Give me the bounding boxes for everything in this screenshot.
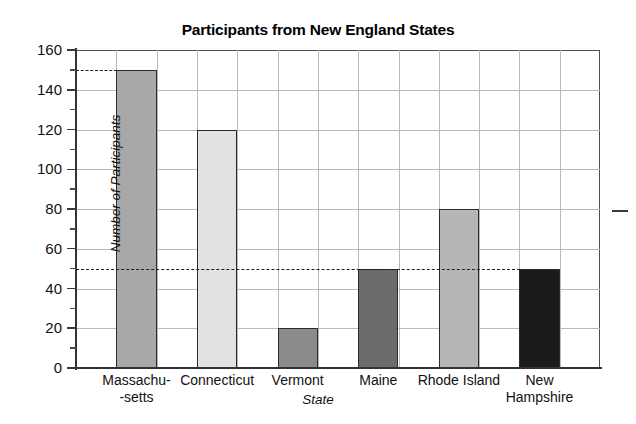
y-tick-minor bbox=[70, 109, 76, 110]
y-tick-minor bbox=[70, 149, 76, 150]
bar-rhode island bbox=[439, 209, 479, 368]
y-tick-minor bbox=[70, 188, 76, 189]
y-tick-minor bbox=[70, 308, 76, 309]
gridline-vertical bbox=[399, 50, 400, 368]
y-tick-label: 80 bbox=[18, 200, 62, 217]
plot-area: Number of Participants bbox=[76, 50, 600, 368]
y-tick-major bbox=[67, 208, 76, 210]
y-tick-minor bbox=[70, 347, 76, 348]
y-tick-label: 140 bbox=[18, 81, 62, 98]
bar-new-hampshire bbox=[519, 269, 559, 368]
bar-maine bbox=[358, 269, 398, 368]
gridline-vertical bbox=[237, 50, 238, 368]
reference-line-150 bbox=[76, 70, 117, 71]
y-tick-label: 60 bbox=[18, 240, 62, 257]
y-tick-major bbox=[67, 129, 76, 131]
y-tick-label: 100 bbox=[18, 160, 62, 177]
gridline-vertical bbox=[318, 50, 319, 368]
bar-connecticut bbox=[197, 130, 237, 369]
y-tick-major bbox=[67, 169, 76, 171]
gridline-vertical bbox=[479, 50, 480, 368]
y-tick-label: 0 bbox=[18, 359, 62, 376]
x-axis-line bbox=[75, 367, 602, 369]
chart-title: Participants from New England States bbox=[0, 21, 636, 39]
y-tick-major bbox=[67, 49, 76, 51]
y-tick-major bbox=[67, 288, 76, 290]
x-axis-title: State bbox=[0, 392, 636, 407]
reference-line-50 bbox=[76, 269, 520, 270]
gridline-vertical bbox=[560, 50, 561, 368]
y-tick-major bbox=[67, 89, 76, 91]
y-tick-label: 160 bbox=[18, 41, 62, 58]
y-tick-minor bbox=[70, 228, 76, 229]
y-tick-major bbox=[67, 367, 76, 369]
gridline-vertical bbox=[278, 50, 279, 368]
y-tick-label: 20 bbox=[18, 319, 62, 336]
bar-chart-figure: . . . Participants from New England Stat… bbox=[0, 0, 636, 424]
y-axis-title: Number of Participants bbox=[108, 89, 123, 279]
y-tick-major bbox=[67, 327, 76, 329]
y-tick-minor bbox=[70, 69, 76, 70]
gridline-vertical bbox=[157, 50, 158, 368]
stray-dash-mark bbox=[612, 210, 628, 212]
y-tick-label: 40 bbox=[18, 280, 62, 297]
y-tick-major bbox=[67, 248, 76, 250]
scan-artifact-text: . . . bbox=[14, 0, 164, 9]
y-tick-label: 120 bbox=[18, 121, 62, 138]
y-tick-minor bbox=[70, 268, 76, 269]
bar-vermont bbox=[278, 328, 318, 368]
